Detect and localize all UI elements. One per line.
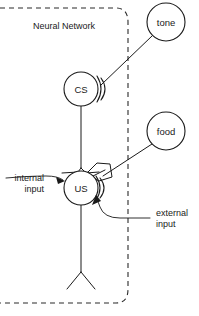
- internal-input-label-line1: internal: [14, 173, 44, 183]
- node-us-label: US: [74, 183, 87, 194]
- node-cs-label: CS: [74, 84, 87, 95]
- external-input-label-line1: external: [156, 208, 188, 218]
- internal-input-label-line2: input: [24, 184, 44, 194]
- us-synaptic-cleft-line: [93, 170, 105, 176]
- external-input-label-line2: input: [156, 219, 176, 229]
- external-input-leader-line: [97, 198, 150, 218]
- neural-network-label: Neural Network: [33, 21, 96, 31]
- neural-network-diagram: Neural Network CS US tone: [0, 0, 199, 316]
- us-axon-terminal-left: [67, 272, 81, 289]
- node-tone-label: tone: [157, 17, 176, 28]
- node-food-label: food: [157, 126, 176, 137]
- diagram-canvas: Neural Network CS US tone: [0, 0, 199, 316]
- us-axon-terminal-right: [81, 272, 95, 289]
- neural-network-boundary: [0, 8, 128, 303]
- connection-tone-to-cs: [101, 36, 152, 85]
